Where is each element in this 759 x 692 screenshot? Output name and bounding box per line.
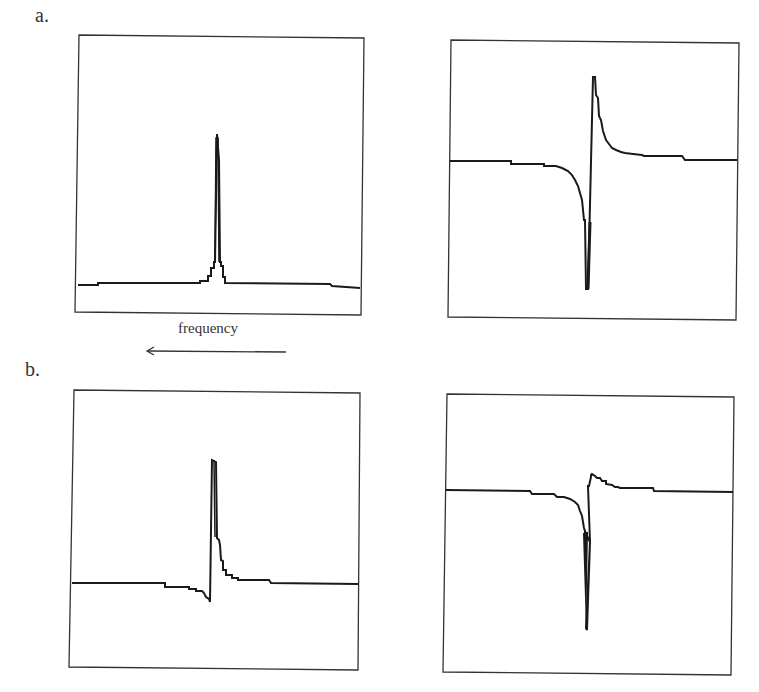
spectrum-line	[450, 77, 737, 289]
plot-b-right	[443, 394, 734, 675]
plot-frame	[443, 394, 734, 675]
frequency-arrow-icon	[147, 347, 286, 355]
plot-b-left	[69, 390, 360, 670]
plot-a-right	[448, 40, 739, 320]
spectrum-line	[446, 474, 733, 630]
spectrum-peak-outline	[214, 460, 215, 537]
plot-a-left	[75, 35, 364, 315]
spectrum-negative-lobe	[588, 222, 590, 289]
spectra-plots	[0, 0, 759, 692]
